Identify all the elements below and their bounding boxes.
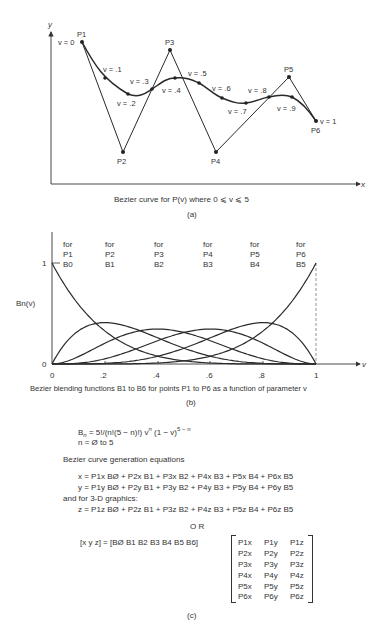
svg-text:for: for — [296, 240, 306, 249]
figure-b: 1 0 Bn(v) v 0 .2 .4 .6 .8 1 for P1 B0 fo… — [0, 0, 383, 380]
svg-text:B0: B0 — [63, 260, 73, 269]
n-range: n = Ø to 5 — [78, 439, 113, 447]
svg-text:for: for — [105, 240, 115, 249]
matrix-cell: P4z — [290, 572, 314, 581]
matrix-cell: P2z — [290, 550, 314, 559]
matrix-cell: P3x — [238, 561, 264, 570]
svg-text:P1: P1 — [63, 250, 73, 259]
b-xtick-3: .6 — [206, 371, 213, 380]
matrix-cell: P4x — [238, 572, 264, 581]
matrix-cell: P1y — [264, 539, 290, 548]
b-xtick-2: .4 — [153, 371, 160, 380]
blending-curve-b2 — [52, 329, 316, 364]
equation-y: y = P1y BØ + P2y B1 + P3y B2 + P4y B3 + … — [78, 484, 293, 492]
blending-curve-b4 — [52, 323, 316, 364]
blending-curve-b0 — [52, 263, 316, 364]
matrix-cell: P2x — [238, 550, 264, 559]
b-ytick-1: 1 — [42, 259, 47, 268]
matrix-cell: P6z — [290, 593, 314, 602]
function-labels: for P1 B0 for P2 B1 for P3 B2 for P4 B3 … — [63, 240, 306, 269]
b-xtick-4: .8 — [258, 371, 265, 380]
figure-b-sublabel: (b) — [186, 399, 196, 407]
svg-text:P6: P6 — [296, 250, 306, 259]
b-ylabel: Bn(v) — [16, 299, 35, 308]
blending-curve-b5 — [52, 263, 316, 364]
matrix-cell: P6x — [238, 593, 264, 602]
svg-text:B1: B1 — [105, 260, 115, 269]
note-3d: and for 3-D graphics: — [63, 495, 138, 503]
b-xlabel: v — [362, 360, 367, 369]
svg-text:P3: P3 — [154, 250, 164, 259]
matrix-cell: P6y — [264, 593, 290, 602]
matrix-cell: P5x — [238, 583, 264, 592]
svg-text:for: for — [203, 240, 213, 249]
or-separator: O R — [190, 523, 204, 531]
equation-z: z = P1z BØ + P2z B1 + P3z B2 + P4z B3 + … — [78, 506, 293, 514]
matrix-cell: P3y — [264, 561, 290, 570]
b-xtick-1: .2 — [100, 371, 107, 380]
svg-text:for: for — [63, 240, 73, 249]
b-xtick-0: 0 — [50, 371, 55, 380]
blending-curve-b3 — [52, 329, 316, 364]
matrix-cell: P5z — [290, 583, 314, 592]
figure-b-caption: Bezier blending functions B1 to B6 for p… — [30, 385, 307, 393]
b-xtick-5: 1 — [314, 371, 319, 380]
matrix-cell: P3z — [290, 561, 314, 570]
blending-curve-b1 — [52, 323, 316, 364]
svg-text:for: for — [154, 240, 164, 249]
matrix-cell: P5y — [264, 583, 290, 592]
matrix-lhs: [x y z] = [BØ B1 B2 B3 B4 B5 B6] — [80, 539, 198, 547]
svg-text:B2: B2 — [154, 260, 164, 269]
equations-heading: Bezier curve generation equations — [63, 456, 184, 464]
matrix-cell: P4y — [264, 572, 290, 581]
b-ytick-0: 0 — [42, 360, 47, 369]
matrix-cell: P1z — [290, 539, 314, 548]
svg-text:P2: P2 — [105, 250, 115, 259]
svg-text:B5: B5 — [296, 260, 306, 269]
coefficient-matrix: P1xP1yP1zP2xP2yP2zP3xP3yP3zP4xP4yP4zP5xP… — [231, 535, 313, 603]
svg-text:P5: P5 — [250, 250, 260, 259]
matrix-cell: P1x — [238, 539, 264, 548]
blending-curves — [52, 263, 316, 364]
figure-c-sublabel: (c) — [187, 612, 196, 620]
svg-text:B4: B4 — [250, 260, 260, 269]
svg-text:P4: P4 — [203, 250, 213, 259]
svg-text:for: for — [250, 240, 260, 249]
bernstein-formula: Bn = 5!/(n!(5 − n)!) vn (1 − v)5 − n — [78, 426, 190, 438]
svg-text:B3: B3 — [203, 260, 213, 269]
matrix-cell: P2y — [264, 550, 290, 559]
equation-x: x = P1x BØ + P2x B1 + P3x B2 + P4x B3 + … — [78, 473, 293, 481]
